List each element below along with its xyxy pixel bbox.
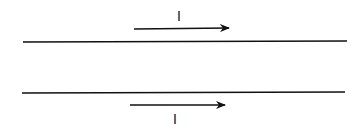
parallel-wires-diagram: I I — [0, 0, 362, 130]
top-wire — [23, 41, 347, 42]
top-current-label: I — [177, 8, 181, 24]
top-current-arrow-icon — [134, 28, 229, 29]
bottom-current-label: I — [173, 111, 177, 127]
bottom-wire — [22, 92, 345, 93]
